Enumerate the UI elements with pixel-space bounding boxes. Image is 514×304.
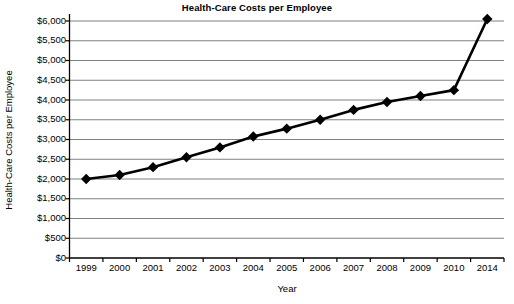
x-axis-title: Year	[70, 283, 504, 294]
x-axis-tick-labels: 1999200020012002200320042005200620072008…	[0, 0, 514, 304]
chart-container: Health-Care Costs per Employee Health-Ca…	[0, 0, 514, 304]
source-note	[96, 297, 514, 304]
x-tick-label: 2014	[465, 262, 509, 273]
